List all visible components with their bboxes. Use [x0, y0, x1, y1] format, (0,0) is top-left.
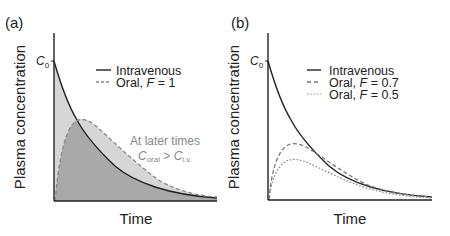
annotation-line-1: At later times [130, 134, 200, 148]
panel-a: (a) C0 Time Plasma concentration Intrave… [5, 14, 217, 227]
panel-a-overlap-fill [55, 120, 217, 201]
panel-b-x-axis-title: Time [334, 210, 367, 227]
panel-a-letter: (a) [5, 14, 23, 31]
annotation-line-2: Coral > Ci.v. [138, 149, 192, 164]
legend-item-oral-f05: Oral, F = 0.5 [329, 88, 399, 102]
panel-b: (b) C0 Time Plasma concentration Intrave… [225, 14, 432, 227]
legend-item-oral-f1: Oral, F = 1 [116, 76, 175, 90]
panel-a-annotation: At later times Coral > Ci.v. [130, 134, 200, 164]
panel-a-legend: Intravenous Oral, F = 1 [96, 64, 181, 90]
panel-a-c0-label: C0 [36, 54, 50, 70]
panel-b-legend: Intravenous Oral, F = 0.7 Oral, F = 0.5 [307, 64, 399, 102]
panel-b-c0-label: C0 [250, 54, 264, 70]
panel-a-x-axis-title: Time [120, 210, 153, 227]
panel-a-y-axis-title: Plasma concentration [11, 45, 28, 189]
panel-b-y-axis-title: Plasma concentration [225, 45, 242, 189]
figure: (a) C0 Time Plasma concentration Intrave… [0, 0, 450, 236]
panel-b-oral-f07-curve [269, 144, 432, 200]
panel-b-letter: (b) [231, 14, 249, 31]
